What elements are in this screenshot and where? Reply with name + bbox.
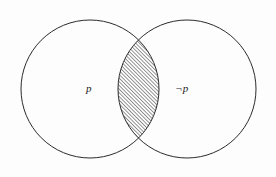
- venn-diagram-figure: p ¬p: [0, 0, 276, 177]
- right-set-label: ¬p: [175, 83, 189, 94]
- venn-diagram-canvas: [0, 0, 276, 177]
- left-set-label: p: [86, 83, 92, 94]
